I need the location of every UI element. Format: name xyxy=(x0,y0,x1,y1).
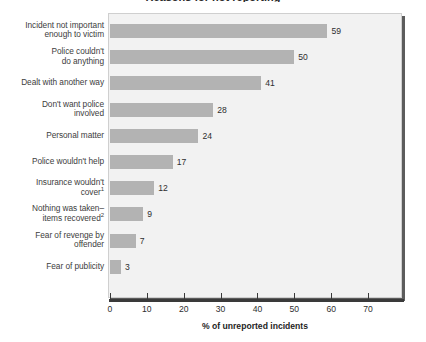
bar-value-label: 17 xyxy=(177,155,187,169)
category-label: Fear of revenge byoffender xyxy=(0,231,104,250)
x-tick-mark xyxy=(368,293,369,299)
x-tick-label: 60 xyxy=(326,304,336,314)
category-label-line: involved xyxy=(0,109,104,119)
bar xyxy=(110,207,143,221)
category-label-line: items recovered2 xyxy=(0,214,104,224)
footnote-marker: 2 xyxy=(101,212,104,218)
x-tick-label: 30 xyxy=(216,304,226,314)
category-label: Incident not importantenough to victim xyxy=(0,21,104,40)
x-tick-mark xyxy=(331,293,332,299)
category-label: Insurance wouldn'tcover1 xyxy=(0,178,104,197)
x-axis-title: % of unreported incidents xyxy=(108,321,402,331)
x-tick-mark xyxy=(257,293,258,299)
bar xyxy=(110,129,198,143)
bar xyxy=(110,234,136,248)
bar-value-label: 7 xyxy=(140,234,145,248)
bar-chart-figure: Reasons for not reporting Incident not i… xyxy=(0,0,426,342)
x-tick-label: 0 xyxy=(108,304,113,314)
bar-value-label: 12 xyxy=(158,181,168,195)
category-label-line: do anything xyxy=(0,57,104,67)
bar-value-label: 28 xyxy=(217,103,227,117)
category-label-line: Personal matter xyxy=(0,131,104,141)
bar-value-label: 3 xyxy=(125,260,130,274)
bar-value-label: 50 xyxy=(298,50,308,64)
category-label: Personal matter xyxy=(0,131,104,141)
x-tick-mark xyxy=(110,293,111,299)
category-label: Police wouldn't help xyxy=(0,157,104,167)
bar xyxy=(110,50,294,64)
bar xyxy=(110,76,261,90)
category-label: Police couldn'tdo anything xyxy=(0,47,104,66)
category-label-line: Fear of publicity xyxy=(0,262,104,272)
bar xyxy=(110,181,154,195)
bar-value-label: 59 xyxy=(331,24,341,38)
category-label: Fear of publicity xyxy=(0,262,104,272)
bar xyxy=(110,103,213,117)
category-label-line: offender xyxy=(0,240,104,250)
x-tick-label: 50 xyxy=(290,304,300,314)
category-label-line: Police wouldn't help xyxy=(0,157,104,167)
x-tick-mark xyxy=(294,293,295,299)
x-tick-mark xyxy=(221,293,222,299)
bar-value-label: 9 xyxy=(147,207,152,221)
bar xyxy=(110,260,121,274)
footnote-marker: 1 xyxy=(101,186,104,192)
chart-title: Reasons for not reporting xyxy=(0,0,426,2)
category-label-line: cover1 xyxy=(0,188,104,198)
x-axis-line xyxy=(109,299,404,302)
x-tick-label: 40 xyxy=(253,304,263,314)
category-label: Dealt with another way xyxy=(0,78,104,88)
bar xyxy=(110,24,327,38)
category-label-line: enough to victim xyxy=(0,30,104,40)
x-tick-label: 20 xyxy=(179,304,189,314)
x-tick-label: 10 xyxy=(142,304,152,314)
bar-value-label: 41 xyxy=(265,76,275,90)
category-label: Nothing was taken–items recovered2 xyxy=(0,204,104,223)
x-tick-mark xyxy=(184,293,185,299)
category-label-line: Dealt with another way xyxy=(0,78,104,88)
bar-value-label: 24 xyxy=(202,129,212,143)
x-tick-mark xyxy=(147,293,148,299)
x-tick-label: 70 xyxy=(363,304,373,314)
category-label: Don't want policeinvolved xyxy=(0,100,104,119)
bar xyxy=(110,155,173,169)
